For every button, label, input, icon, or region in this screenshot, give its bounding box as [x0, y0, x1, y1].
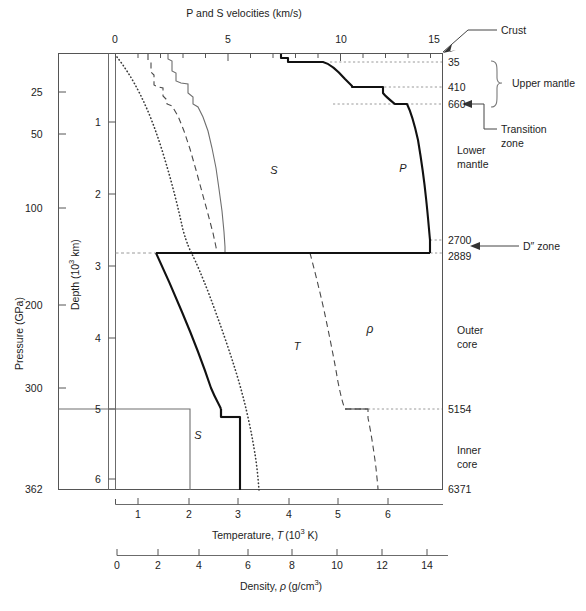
velocity-tick-5: 5	[225, 34, 231, 45]
s-wave-curve	[168, 54, 225, 253]
density-curve-core	[310, 253, 345, 409]
layer-label-upper-mantle: Upper mantle	[512, 78, 575, 89]
depth-tick-4: 4	[95, 333, 101, 344]
boundary-marker-6371: 6371	[448, 484, 471, 495]
pressure-axis-ticks	[59, 92, 67, 388]
velocity-tick-15: 15	[428, 34, 440, 45]
temperature-tick-1: 1	[135, 509, 141, 520]
density-tick-14: 14	[421, 560, 433, 571]
layer-label-inner-core: Inner	[457, 445, 481, 456]
temperature-tick-4: 4	[286, 509, 292, 520]
boundary-marker-410: 410	[448, 82, 466, 93]
boundary-marker-5154: 5154	[448, 404, 471, 415]
density-axis-title: Density, ρ (g/cm3)	[240, 579, 322, 591]
earth-interior-figure	[0, 0, 586, 611]
depth-tick-6: 6	[95, 474, 101, 485]
density-tick-12: 12	[376, 560, 388, 571]
velocity-tick-0: 0	[112, 34, 118, 45]
upper-mantle-brace	[491, 61, 502, 107]
p-wave-curve-outer	[156, 253, 221, 409]
temperature-tick-6: 6	[385, 509, 391, 520]
crust-pointer	[443, 30, 497, 52]
layer-label-lower-mantle-line2: mantle	[457, 159, 489, 170]
density-tick-6: 6	[245, 560, 251, 571]
crust-arrow-head	[443, 44, 456, 53]
depth-axis-ticks	[109, 122, 117, 479]
density-tick-0: 0	[114, 560, 120, 571]
boundary-marker-2700: 2700	[448, 235, 471, 246]
pressure-tick-200: 200	[25, 300, 43, 311]
layer-label-inner-core-line2: core	[457, 459, 477, 470]
boundary-marker-660: 660	[448, 99, 466, 110]
density-axis-ticks	[117, 549, 427, 556]
curve-label-s-inner: S	[194, 430, 201, 441]
layer-label-d-double-prime: D″ zone	[523, 241, 560, 252]
depth-tick-2: 2	[95, 189, 101, 200]
transition-zone-pointer	[469, 104, 497, 129]
layer-label-transition-zone: Transition	[501, 124, 547, 135]
depth-tick-1: 1	[95, 117, 101, 128]
velocity-tick-10: 10	[335, 34, 347, 45]
top-axis-ticks	[116, 54, 431, 62]
density-tick-8: 8	[289, 560, 295, 571]
temperature-tick-2: 2	[186, 509, 192, 520]
density-tick-4: 4	[196, 560, 202, 571]
chart-title: P and S velocities (km/s)	[186, 8, 301, 19]
layer-label-outer-core: Outer	[457, 325, 483, 336]
boundary-marker-2889: 2889	[448, 251, 471, 262]
temperature-tick-5: 5	[335, 509, 341, 520]
temperature-tick-3: 3	[235, 509, 241, 520]
pressure-tick-50: 50	[31, 129, 43, 140]
d-zone-arrow-head	[470, 242, 480, 250]
s-inner-core-box	[59, 409, 191, 490]
curve-label-s: S	[270, 165, 277, 176]
pressure-axis-title: Pressure (GPa)	[14, 297, 25, 370]
p-wave-curve-inner	[221, 409, 240, 490]
p-wave-curve	[281, 54, 430, 253]
curve-label-p: P	[399, 163, 406, 174]
depth-axis-title: Depth (103 km)	[68, 239, 80, 310]
boundary-leader-lines	[320, 62, 442, 409]
curve-label-rho: ρ	[367, 323, 374, 335]
temperature-curve	[117, 57, 259, 490]
temperature-axis-ticks	[116, 498, 389, 505]
curve-label-t: T	[294, 341, 301, 352]
depth-tick-3: 3	[95, 261, 101, 272]
density-curve	[148, 54, 217, 253]
pressure-tick-25: 25	[31, 87, 43, 98]
density-tick-2: 2	[155, 560, 161, 571]
pressure-tick-100: 100	[25, 203, 43, 214]
pressure-tick-362: 362	[25, 484, 43, 495]
layer-label-lower-mantle: Lower	[457, 145, 486, 156]
temperature-axis-title: Temperature, T (103 K)	[212, 528, 318, 540]
plot-frame	[59, 54, 443, 490]
layer-label-transition-zone-line2: zone	[501, 138, 524, 149]
layer-label-crust: Crust	[501, 25, 526, 36]
density-tick-10: 10	[331, 560, 343, 571]
pressure-tick-300: 300	[25, 383, 43, 394]
depth-tick-5: 5	[95, 404, 101, 415]
density-curve-inner	[345, 409, 378, 490]
layer-label-outer-core-line2: core	[457, 339, 477, 350]
boundary-marker-35: 35	[448, 57, 460, 68]
